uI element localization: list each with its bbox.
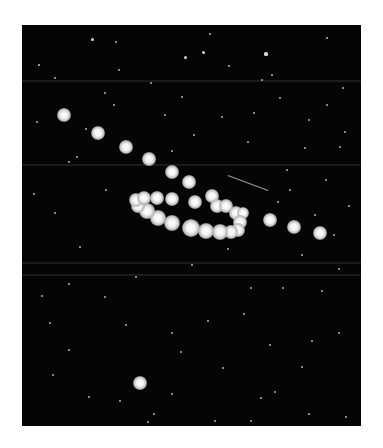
background-star	[304, 147, 306, 149]
background-star	[250, 420, 252, 422]
background-star	[88, 396, 90, 398]
background-star	[79, 246, 81, 248]
planet-position	[212, 224, 228, 240]
background-star	[279, 97, 281, 99]
background-star	[36, 121, 38, 123]
background-star	[264, 52, 267, 55]
background-star	[271, 74, 273, 76]
background-star	[243, 313, 245, 315]
background-star	[222, 367, 224, 369]
background-star	[338, 332, 340, 334]
background-star	[104, 296, 106, 298]
background-star	[228, 65, 230, 67]
background-star	[261, 79, 263, 81]
background-star	[104, 92, 106, 94]
sensor-band	[22, 80, 361, 82]
background-star	[325, 179, 327, 181]
background-star	[274, 391, 276, 393]
background-star	[33, 193, 35, 195]
background-star	[308, 413, 310, 415]
background-star	[286, 169, 288, 171]
background-star	[54, 212, 56, 214]
background-star	[348, 205, 350, 207]
background-star	[115, 41, 117, 43]
sensor-band	[22, 274, 361, 276]
background-star	[105, 189, 107, 191]
background-star	[191, 264, 193, 266]
background-star	[345, 416, 347, 418]
planet-position	[198, 223, 214, 239]
planet-position	[165, 192, 179, 206]
background-star	[76, 156, 78, 158]
background-star	[135, 276, 137, 278]
background-star	[171, 150, 173, 152]
satellite-streak	[228, 175, 268, 191]
background-star	[269, 344, 271, 346]
background-star	[184, 56, 187, 59]
background-star	[207, 320, 209, 322]
background-star	[250, 287, 252, 289]
background-star	[118, 69, 120, 71]
planet-position	[313, 226, 327, 240]
planet-position	[150, 191, 164, 205]
sensor-band	[22, 164, 361, 166]
planet-position	[263, 213, 277, 227]
background-star	[171, 332, 173, 334]
background-star	[289, 189, 291, 191]
background-star	[85, 128, 87, 130]
star-field-photo	[22, 25, 361, 426]
background-star	[227, 248, 229, 250]
background-star	[125, 324, 127, 326]
background-star	[193, 134, 195, 136]
background-star	[68, 161, 70, 163]
background-star	[333, 234, 335, 236]
background-star	[49, 322, 51, 324]
background-star	[338, 268, 340, 270]
planet-position	[287, 220, 301, 234]
background-star	[153, 413, 155, 415]
background-star	[214, 420, 216, 422]
planet-position	[91, 126, 105, 140]
background-star	[91, 38, 94, 41]
background-star	[253, 112, 255, 114]
background-star	[164, 114, 166, 116]
background-star	[326, 37, 328, 39]
background-star	[68, 349, 70, 351]
background-star	[308, 119, 310, 121]
planet-position	[182, 175, 196, 189]
background-star	[301, 254, 303, 256]
background-star	[68, 283, 70, 285]
background-star	[282, 287, 284, 289]
background-star	[180, 351, 182, 353]
background-star	[311, 340, 313, 342]
background-star	[41, 295, 43, 297]
background-star	[54, 77, 56, 79]
planet-position	[142, 152, 156, 166]
planet-position	[164, 215, 180, 231]
background-star	[147, 421, 149, 423]
background-star	[113, 104, 115, 106]
background-star	[202, 51, 205, 54]
background-star	[339, 146, 341, 148]
background-star	[38, 64, 41, 67]
planet-position	[182, 219, 200, 237]
background-star	[342, 87, 344, 89]
planet-position	[188, 195, 202, 209]
background-star	[301, 366, 303, 368]
background-star	[321, 290, 323, 292]
background-star	[247, 141, 249, 143]
background-star	[150, 82, 152, 84]
background-star	[119, 400, 121, 402]
planet-position	[57, 108, 71, 122]
background-star	[314, 214, 316, 216]
background-star	[209, 33, 211, 35]
planet-position	[119, 140, 133, 154]
background-star	[260, 397, 262, 399]
background-star	[326, 104, 328, 106]
background-star	[181, 96, 183, 98]
background-star	[277, 201, 279, 203]
planet-position	[165, 165, 179, 179]
planet-position	[137, 191, 151, 205]
background-star	[171, 393, 173, 395]
background-star	[221, 116, 223, 118]
